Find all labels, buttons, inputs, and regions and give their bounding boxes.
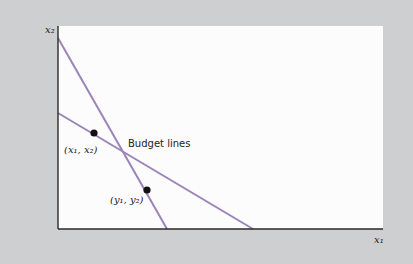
point-y: [143, 186, 150, 193]
point-x-label: (x₁, x₂): [64, 144, 97, 155]
y-axis-label: x₂: [45, 24, 55, 35]
plot-area: [58, 26, 383, 229]
x-axis-label: x₁: [374, 234, 384, 245]
budget-line-diagram: [0, 0, 413, 264]
budget-lines-label: Budget lines: [128, 138, 190, 149]
point-y-label: (y₁, y₂): [110, 194, 143, 205]
point-x: [90, 129, 97, 136]
